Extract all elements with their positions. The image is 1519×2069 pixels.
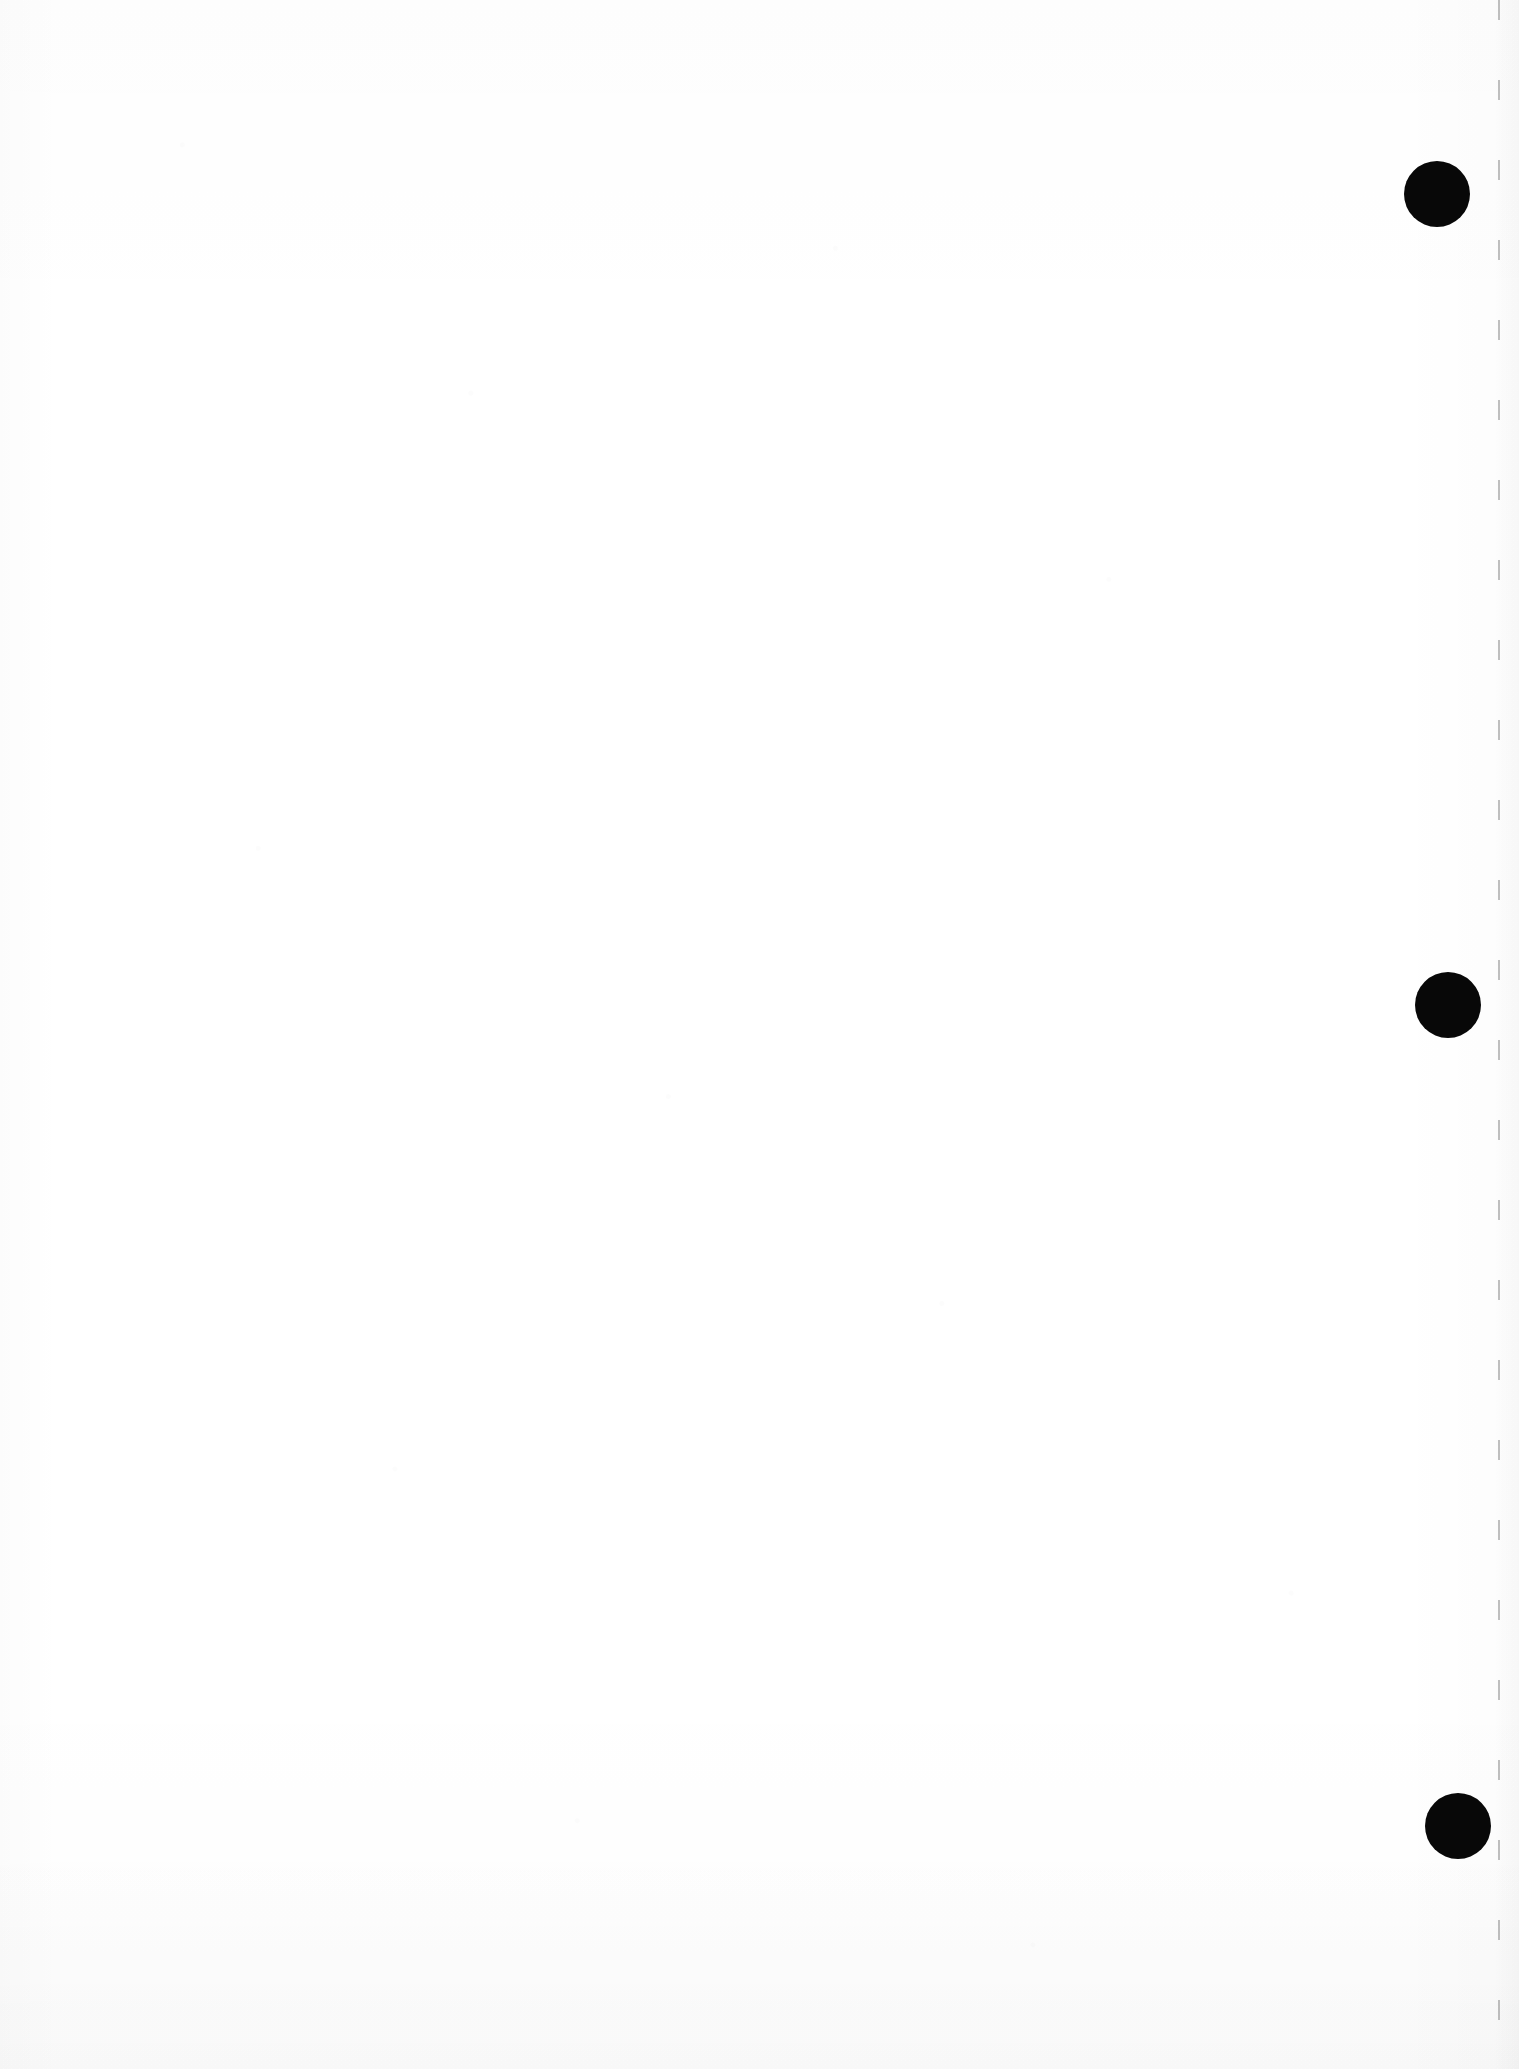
paper-texture-overlay [0,0,1519,2069]
register-dot-top [1404,161,1470,227]
scan-shadow-right [1493,0,1519,2069]
right-margin-dashed-line [1498,0,1500,2069]
scan-shadow-bottom [0,1839,1519,2069]
scanned-page [0,0,1519,2069]
register-dot-middle [1415,972,1481,1038]
register-dot-bottom [1425,1793,1491,1859]
